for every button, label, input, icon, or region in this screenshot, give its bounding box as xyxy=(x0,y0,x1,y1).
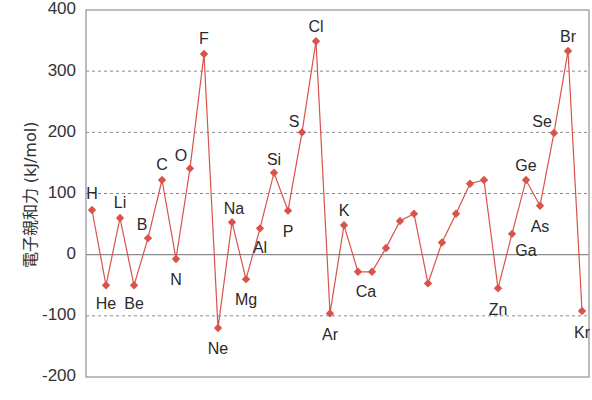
element-label-ca: Ca xyxy=(356,283,377,300)
element-label-se: Se xyxy=(532,113,552,130)
data-point-b xyxy=(144,234,152,242)
element-label-s: S xyxy=(289,113,300,130)
element-label-al: Al xyxy=(253,239,267,256)
element-label-li: Li xyxy=(114,194,126,211)
data-point-ni xyxy=(466,180,474,188)
data-point-si xyxy=(270,169,278,177)
element-label-ar: Ar xyxy=(322,326,339,343)
element-label-c: C xyxy=(156,156,168,173)
data-point-o xyxy=(186,164,194,172)
element-label-na: Na xyxy=(224,200,245,217)
data-point-zn xyxy=(494,284,502,292)
element-label-p: P xyxy=(283,223,294,240)
data-point-p xyxy=(284,206,292,214)
element-label-ne: Ne xyxy=(208,340,229,357)
series-line xyxy=(92,41,582,328)
element-label-n: N xyxy=(170,271,182,288)
data-point-he xyxy=(102,281,110,289)
data-point-ne xyxy=(214,324,222,332)
y-tick-label: 100 xyxy=(48,183,76,202)
y-axis-ticks: 4003002001000-100-200 xyxy=(42,0,76,385)
element-label-k: K xyxy=(339,202,350,219)
element-label-kr: Kr xyxy=(574,324,591,341)
data-point-h xyxy=(88,206,96,214)
element-label-be: Be xyxy=(124,295,144,312)
element-label-cl: Cl xyxy=(308,18,323,35)
gridlines xyxy=(86,71,589,316)
data-point-cr xyxy=(410,209,418,217)
element-label-ga: Ga xyxy=(515,242,536,259)
element-label-b: B xyxy=(137,216,148,233)
data-point-fe xyxy=(438,238,446,246)
y-tick-label: 200 xyxy=(48,122,76,141)
element-label-mg: Mg xyxy=(235,291,257,308)
data-point-n xyxy=(172,255,180,263)
data-series xyxy=(88,37,586,332)
y-axis-label: 電子親和力 (kJ/mol) xyxy=(21,122,40,269)
data-point-c xyxy=(158,176,166,184)
data-point-na xyxy=(228,218,236,226)
data-point-ti xyxy=(382,244,390,252)
y-tick-label: 0 xyxy=(67,244,76,263)
element-label-ge: Ge xyxy=(515,157,536,174)
data-point-ca xyxy=(354,268,362,276)
data-point-al xyxy=(256,224,264,232)
electron-affinity-chart: 4003002001000-100-200 電子親和力 (kJ/mol) HHe… xyxy=(0,0,592,400)
data-point-as xyxy=(536,202,544,210)
element-label-h: H xyxy=(86,185,98,202)
data-point-k xyxy=(340,221,348,229)
data-point-br xyxy=(564,47,572,55)
data-point-co xyxy=(452,209,460,217)
y-tick-label: -200 xyxy=(42,366,76,385)
data-point-cl xyxy=(312,37,320,45)
data-point-sc xyxy=(368,268,376,276)
data-point-li xyxy=(116,214,124,222)
data-point-ge xyxy=(522,176,530,184)
data-point-v xyxy=(396,217,404,225)
element-labels: HHeLiBeBCNOFNeNaMgAlSiPSClArKCaZnGaGeAsS… xyxy=(86,18,590,357)
element-label-zn: Zn xyxy=(489,301,508,318)
element-label-br: Br xyxy=(560,28,577,45)
data-point-be xyxy=(130,281,138,289)
element-label-si: Si xyxy=(267,151,281,168)
data-point-mn xyxy=(424,279,432,287)
data-point-mg xyxy=(242,275,250,283)
element-label-as: As xyxy=(531,218,550,235)
element-label-he: He xyxy=(96,295,117,312)
data-point-cu xyxy=(480,176,488,184)
data-point-kr xyxy=(578,307,586,315)
data-point-ga xyxy=(508,230,516,238)
y-tick-label: 400 xyxy=(48,0,76,18)
y-tick-label: 300 xyxy=(48,61,76,80)
data-point-f xyxy=(200,50,208,58)
element-label-o: O xyxy=(175,147,187,164)
element-label-f: F xyxy=(199,30,209,47)
y-tick-label: -100 xyxy=(42,305,76,324)
